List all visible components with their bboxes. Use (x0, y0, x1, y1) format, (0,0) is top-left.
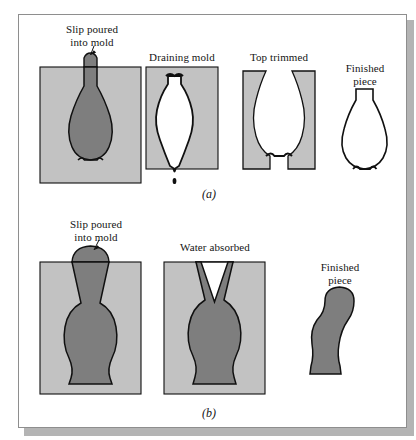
panel-a-step-slip-poured (40, 53, 141, 183)
mold-block-right (288, 71, 315, 169)
panel-caption-b: (b) (189, 406, 229, 421)
label-draining-mold: Draining mold (138, 51, 226, 64)
label-slip-poured-into-mold-b: Slip poured into mold (57, 218, 135, 243)
panel-a-step-finished-piece (342, 89, 387, 169)
finished-solid-piece (310, 287, 354, 374)
panel-b-step-water-absorbed (164, 262, 265, 394)
label-finished-piece-a: Finished piece (334, 62, 396, 87)
drip-droplet (173, 178, 177, 184)
slip-pour-neck (84, 53, 97, 67)
label-water-absorbed: Water absorbed (166, 241, 264, 254)
figure-page: Slip poured into mold Draining mold Top … (0, 0, 416, 440)
panel-caption-a: (a) (189, 187, 229, 202)
panel-a-step-top-trimmed (243, 71, 315, 169)
mold-block-left (243, 71, 270, 169)
slip-sprue-head (72, 246, 109, 262)
panel-b-step-finished-piece (310, 287, 354, 374)
label-finished-piece-b: Finished piece (309, 261, 371, 286)
finished-vase-outline (342, 89, 387, 169)
label-top-trimmed: Top trimmed (236, 51, 322, 64)
panel-a-step-draining-mold (146, 67, 218, 184)
label-slip-poured-into-mold-a: Slip poured into mold (53, 23, 131, 48)
panel-b-step-slip-poured (40, 246, 141, 394)
drip-stream (173, 169, 177, 173)
